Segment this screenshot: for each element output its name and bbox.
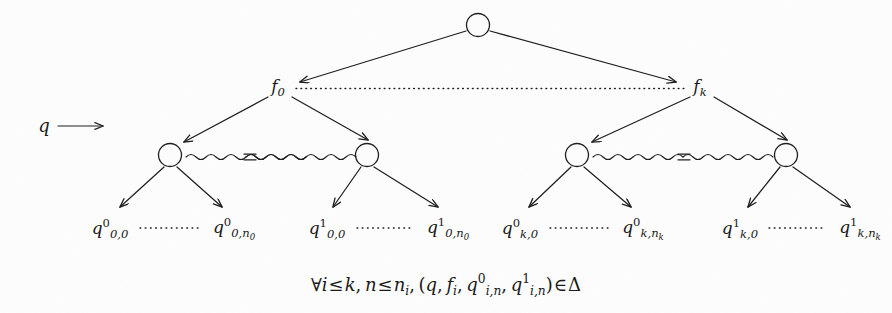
root-node bbox=[467, 14, 490, 37]
equals-sign-k bbox=[678, 154, 690, 160]
leaf-label-k-1-nk: q1k,nk bbox=[839, 217, 881, 241]
leaf-label-0-0-n0: q00,n0 bbox=[213, 217, 255, 241]
leaf-label-k-0-0: q0k,0 bbox=[502, 218, 538, 240]
leaf-label-0-0-0: q00,0 bbox=[92, 218, 129, 240]
leaf-label-0-1-0: q10,0 bbox=[309, 218, 346, 240]
constraint-formula: ∀i≤k, n≤ni, (q, fi, q0i,n, q1i,n)∈Δ bbox=[311, 273, 581, 297]
squiggle-k-right bbox=[683, 155, 773, 160]
leaf-label-k-1-0: q1k,0 bbox=[722, 218, 758, 240]
input-state-label: q bbox=[38, 117, 50, 135]
paper-grain bbox=[0, 0, 892, 313]
squiggle-k-left bbox=[593, 155, 683, 160]
edge-nkl-leaf1 bbox=[529, 167, 571, 207]
edge-f0-left bbox=[184, 97, 268, 142]
function-label-fk: fk bbox=[693, 78, 706, 98]
node-0-right bbox=[356, 144, 379, 167]
edge-n0l-leaf2 bbox=[177, 167, 222, 207]
squiggle-0-left bbox=[186, 155, 306, 160]
edge-f0-right bbox=[292, 97, 368, 140]
edge-nkr-leaf2 bbox=[793, 167, 850, 207]
edge-fk-left bbox=[592, 97, 690, 142]
edge-n0r-leaf2 bbox=[374, 167, 438, 207]
squiggle-0-right bbox=[246, 155, 356, 160]
function-label-f0: f0 bbox=[271, 78, 285, 98]
equals-sign-0 bbox=[244, 154, 256, 160]
edge-nkr-leaf1 bbox=[748, 167, 780, 207]
edge-n0l-leaf1 bbox=[120, 167, 164, 207]
node-0-left bbox=[159, 144, 182, 167]
node-k-left bbox=[566, 144, 589, 167]
edge-root-fk bbox=[490, 31, 676, 82]
leaf-label-k-0-nk: q0k,nk bbox=[622, 217, 664, 241]
edge-layer bbox=[0, 0, 892, 313]
node-k-right bbox=[775, 144, 798, 167]
diagram-canvas: q f0 fk q00,0 q00,n0 q10,0 q10,n0 q0k,0 … bbox=[0, 0, 892, 313]
leaf-label-0-1-n0: q10,n0 bbox=[427, 217, 469, 241]
edge-root-f0 bbox=[300, 31, 466, 82]
edge-nkl-leaf2 bbox=[584, 167, 631, 207]
edge-n0r-leaf1 bbox=[333, 167, 361, 207]
edge-fk-right bbox=[714, 97, 787, 140]
